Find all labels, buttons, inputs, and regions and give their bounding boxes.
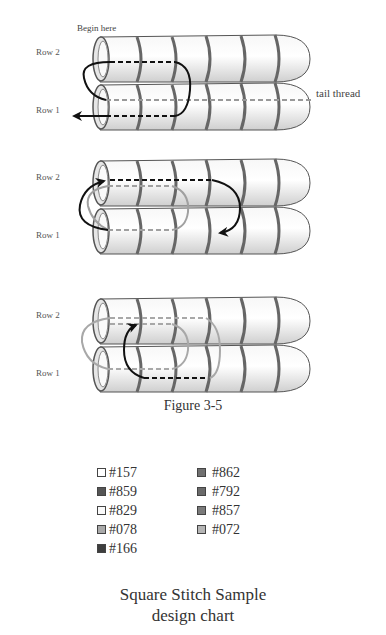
bead-diagram-step-3 xyxy=(0,293,386,398)
bead-row-2 xyxy=(93,35,310,82)
legend-item: #166 xyxy=(97,539,137,558)
color-code: #072 xyxy=(212,522,240,538)
color-swatch-icon xyxy=(197,506,206,515)
legend-item: #862 xyxy=(197,463,240,482)
chart-title: Square Stitch Sample design chart xyxy=(0,584,386,626)
color-swatch-icon xyxy=(97,525,106,534)
legend-item: #829 xyxy=(97,501,137,520)
color-code: #166 xyxy=(109,541,137,557)
color-code: #157 xyxy=(109,465,137,481)
figure-caption: Figure 3-5 xyxy=(0,398,386,414)
bead-row-2 xyxy=(93,159,310,206)
color-swatch-icon xyxy=(197,525,206,534)
legend-item: #859 xyxy=(97,482,137,501)
color-code: #857 xyxy=(212,503,240,519)
color-swatch-icon xyxy=(97,487,106,496)
color-swatch-icon xyxy=(197,468,206,477)
legend-right-column: #862 #792 #857 #072 xyxy=(197,463,240,539)
bead-diagram-step-2 xyxy=(0,155,386,260)
color-code: #862 xyxy=(212,465,240,481)
legend-item: #072 xyxy=(197,520,240,539)
legend-item: #157 xyxy=(97,463,137,482)
color-code: #078 xyxy=(109,522,137,538)
legend-item: #792 xyxy=(197,482,240,501)
legend-left-column: #157 #859 #829 #078 #166 xyxy=(97,463,137,558)
color-swatch-icon xyxy=(97,544,106,553)
chart-title-line-1: Square Stitch Sample xyxy=(0,584,386,605)
color-swatch-icon xyxy=(197,487,206,496)
color-swatch-icon xyxy=(97,468,106,477)
bead-row-1 xyxy=(93,83,310,130)
bead-diagram-step-1 xyxy=(0,30,386,138)
color-swatch-icon xyxy=(97,506,106,515)
legend-item: #857 xyxy=(197,501,240,520)
chart-title-line-2: design chart xyxy=(0,605,386,626)
color-code: #829 xyxy=(109,503,137,519)
color-code: #792 xyxy=(212,484,240,500)
legend-item: #078 xyxy=(97,520,137,539)
color-code: #859 xyxy=(109,484,137,500)
